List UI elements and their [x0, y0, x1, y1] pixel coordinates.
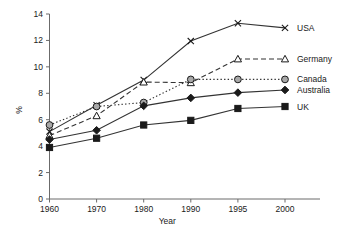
y-tick-label: 14 [34, 9, 44, 19]
series-line-australia [50, 90, 286, 140]
legend-label-canada[interactable]: Canada [297, 74, 327, 84]
x-tick-label: 1970 [87, 204, 106, 214]
legend-label-australia[interactable]: Australia [297, 85, 330, 95]
data-point-usa-1990 [188, 38, 194, 44]
data-point-uk-1995 [235, 105, 241, 111]
data-point-australia-1970 [93, 126, 101, 134]
data-point-uk-2000 [282, 103, 288, 109]
data-point-canada-1960 [46, 122, 53, 129]
data-point-canada-2000 [282, 76, 289, 83]
legend-label-uk[interactable]: UK [297, 102, 309, 112]
data-point-uk-1990 [188, 117, 194, 123]
data-point-uk-1970 [94, 135, 100, 141]
chart-canvas: 02468101214196019701980199019952000Year%… [0, 0, 361, 245]
y-tick-label: 6 [38, 115, 43, 125]
data-point-australia-1995 [234, 89, 242, 97]
data-point-uk-1960 [46, 144, 52, 150]
y-tick-label: 2 [38, 168, 43, 178]
y-axis-title: % [14, 106, 24, 114]
data-point-canada-1995 [235, 76, 242, 83]
x-axis-title: Year [159, 216, 176, 226]
data-point-australia-2000 [281, 86, 289, 94]
x-tick-label: 1960 [40, 204, 59, 214]
y-tick-label: 4 [38, 141, 43, 151]
data-point-canada-1970 [93, 103, 100, 110]
data-point-germany-1970 [93, 112, 100, 119]
legend-label-usa[interactable]: USA [297, 23, 315, 33]
y-tick-label: 0 [38, 194, 43, 204]
series-line-usa [50, 23, 286, 131]
x-tick-label: 2000 [276, 204, 295, 214]
line-chart: 02468101214196019701980199019952000Year%… [0, 0, 361, 245]
y-tick-label: 12 [34, 35, 44, 45]
series-line-germany [50, 59, 286, 136]
y-tick-label: 8 [38, 88, 43, 98]
x-tick-label: 1990 [181, 204, 200, 214]
data-point-australia-1990 [187, 94, 195, 102]
data-point-canada-1990 [187, 76, 194, 83]
data-point-uk-1980 [141, 122, 147, 128]
y-tick-label: 10 [34, 62, 44, 72]
data-point-germany-2000 [281, 55, 288, 62]
x-tick-label: 1995 [228, 204, 247, 214]
legend-label-germany[interactable]: Germany [297, 54, 333, 64]
x-tick-label: 1980 [134, 204, 153, 214]
series-line-uk [50, 107, 286, 148]
